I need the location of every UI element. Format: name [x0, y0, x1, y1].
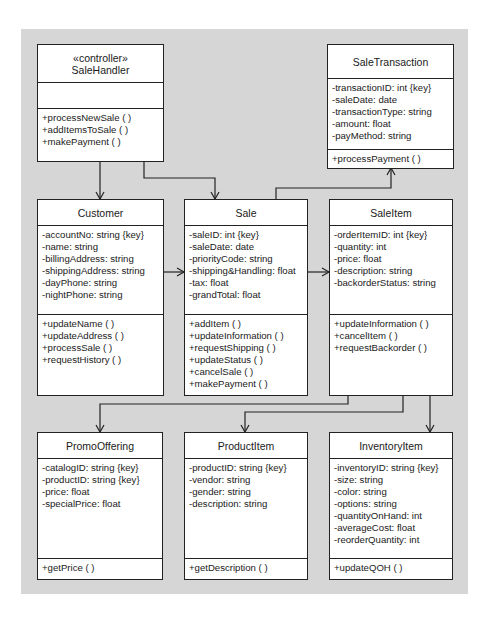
attribute: -transactionID: int {key} [332, 82, 449, 94]
class-name: Sale [185, 207, 307, 219]
operation: +getPrice ( ) [42, 562, 158, 574]
operation: +makePayment ( ) [189, 378, 303, 390]
attribute: -specialPrice: float [42, 498, 158, 510]
operation: +cancelItem ( ) [334, 330, 448, 342]
class-stereotype: «controller» [38, 52, 163, 64]
class-operations: +updateInformation ( ) +cancelItem ( ) +… [330, 315, 452, 395]
class-productitem[interactable]: ProductItem -productID: string {key} -ve… [184, 432, 308, 580]
attribute: -averageCost: float [334, 522, 448, 534]
class-name: Customer [38, 207, 163, 219]
attribute: -quantity: int [334, 241, 448, 253]
attribute: -transactionType: string [332, 106, 449, 118]
attribute: -amount: float [332, 118, 449, 130]
attribute: -productID: string {key} [42, 474, 158, 486]
class-promooffering[interactable]: PromoOffering -catalogID: string {key} -… [37, 432, 163, 580]
operation: +updateInformation ( ) [334, 318, 448, 330]
class-name: SaleTransaction [328, 56, 453, 68]
attribute: -inventoryID: string {key} [334, 462, 448, 474]
attribute: -saleDate: date [332, 94, 449, 106]
class-salehandler[interactable]: «controller» SaleHandler +processNewSale… [37, 44, 164, 162]
class-header: InventoryItem [330, 433, 452, 459]
attribute: -orderItemID: int {key} [334, 229, 448, 241]
attribute: -options: string [334, 498, 448, 510]
attribute: -accountNo: string {key} [42, 229, 159, 241]
class-operations: +getPrice ( ) [38, 559, 162, 579]
class-attributes: -catalogID: string {key} -productID: str… [38, 459, 162, 559]
class-header: Customer [38, 200, 163, 226]
class-attributes: -transactionID: int {key} -saleDate: dat… [328, 79, 453, 150]
attribute: -shippingAddress: string [42, 265, 159, 277]
class-header: SaleTransaction [328, 45, 453, 79]
attribute: -color: string [334, 486, 448, 498]
attribute: -backorderStatus: string [334, 277, 448, 289]
operation: +updateStatus ( ) [189, 354, 303, 366]
operation: +addItemsToSale ( ) [42, 124, 159, 136]
attribute: -shipping&Handling: float [189, 265, 303, 277]
class-attributes: -productID: string {key} -vendor: string… [185, 459, 307, 559]
class-header: ProductItem [185, 433, 307, 459]
attribute: -description: string [189, 498, 303, 510]
operation: +processPayment ( ) [332, 153, 449, 165]
attribute: -price: float [334, 253, 448, 265]
operation: +requestBackorder ( ) [334, 342, 448, 354]
operation: +requestHistory ( ) [42, 354, 159, 366]
attribute: -gender: string [189, 486, 303, 498]
class-customer[interactable]: Customer -accountNo: string {key} -name:… [37, 199, 164, 396]
attribute: -priorityCode: string [189, 253, 303, 265]
class-inventoryitem[interactable]: InventoryItem -inventoryID: string {key}… [329, 432, 453, 580]
class-operations: +updateName ( ) +updateAddress ( ) +proc… [38, 315, 163, 395]
class-attributes: -saleID: int {key} -saleDate: date -prio… [185, 226, 307, 315]
operation: +processSale ( ) [42, 342, 159, 354]
class-attributes [38, 83, 163, 109]
attribute: -productID: string {key} [189, 462, 303, 474]
class-attributes: -orderItemID: int {key} -quantity: int -… [330, 226, 452, 315]
attribute: -reorderQuantity: int [334, 534, 448, 546]
class-saleitem[interactable]: SaleItem -orderItemID: int {key} -quanti… [329, 199, 453, 396]
attribute: -vendor: string [189, 474, 303, 486]
attribute: -billingAddress: string [42, 253, 159, 265]
class-operations: +updateQOH ( ) [330, 559, 452, 579]
operation: +requestShipping ( ) [189, 342, 303, 354]
operation: +addItem ( ) [189, 318, 303, 330]
attribute: -tax: float [189, 277, 303, 289]
class-operations: +getDescription ( ) [185, 559, 307, 579]
class-sale[interactable]: Sale -saleID: int {key} -saleDate: date … [184, 199, 308, 396]
attribute: -name: string [42, 241, 159, 253]
class-attributes: -inventoryID: string {key} -size: string… [330, 459, 452, 559]
operation: +updateQOH ( ) [334, 562, 448, 574]
operation: +cancelSale ( ) [189, 366, 303, 378]
class-header: PromoOffering [38, 433, 162, 459]
class-name: ProductItem [185, 440, 307, 452]
attribute: -dayPhone: string [42, 277, 159, 289]
class-name: SaleHandler [38, 64, 163, 76]
attribute: -nightPhone: string [42, 289, 159, 301]
operation: +getDescription ( ) [189, 562, 303, 574]
operation: +updateName ( ) [42, 318, 159, 330]
operation: +updateAddress ( ) [42, 330, 159, 342]
class-header: SaleItem [330, 200, 452, 226]
operation: +processNewSale ( ) [42, 112, 159, 124]
attribute: -size: string [334, 474, 448, 486]
class-attributes: -accountNo: string {key} -name: string -… [38, 226, 163, 315]
operation: +makePayment ( ) [42, 136, 159, 148]
attribute: -quantityOnHand: int [334, 510, 448, 522]
attribute: -grandTotal: float [189, 289, 303, 301]
attribute: -description: string [334, 265, 448, 277]
class-name: InventoryItem [330, 440, 452, 452]
class-operations: +addItem ( ) +updateInformation ( ) +req… [185, 315, 307, 395]
class-operations: +processPayment ( ) [328, 150, 453, 168]
class-header: «controller» SaleHandler [38, 45, 163, 83]
class-saletransaction[interactable]: SaleTransaction -transactionID: int {key… [327, 44, 454, 169]
attribute: -price: float [42, 486, 158, 498]
operation: +updateInformation ( ) [189, 330, 303, 342]
class-operations: +processNewSale ( ) +addItemsToSale ( ) … [38, 109, 163, 161]
class-name: PromoOffering [38, 440, 162, 452]
class-name: SaleItem [330, 207, 452, 219]
attribute: -saleID: int {key} [189, 229, 303, 241]
attribute: -saleDate: date [189, 241, 303, 253]
attribute: -catalogID: string {key} [42, 462, 158, 474]
class-header: Sale [185, 200, 307, 226]
attribute: -payMethod: string [332, 130, 449, 142]
